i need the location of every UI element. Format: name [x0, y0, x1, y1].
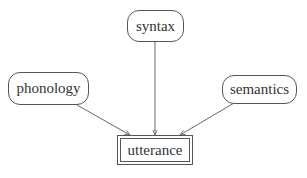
edge-phonology-to-utterance	[77, 105, 130, 135]
edge-semantics-to-utterance	[180, 103, 234, 135]
node-utterance-label: utterance	[128, 142, 183, 159]
node-semantics: semantics	[222, 75, 297, 104]
node-utterance: utterance	[117, 135, 193, 165]
diagram-canvas: syntax phonology semantics utterance	[0, 0, 307, 178]
node-phonology: phonology	[8, 72, 89, 105]
node-syntax: syntax	[127, 10, 184, 42]
node-phonology-label: phonology	[16, 80, 80, 97]
node-semantics-label: semantics	[230, 81, 289, 98]
node-syntax-label: syntax	[136, 18, 175, 35]
node-utterance-inner-border: utterance	[120, 138, 190, 162]
